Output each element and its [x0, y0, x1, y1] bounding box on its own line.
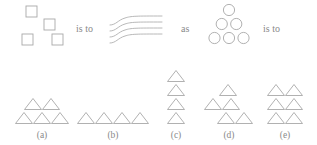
option-c[interactable] [168, 71, 185, 124]
option-a[interactable] [16, 99, 69, 124]
option-b[interactable] [78, 113, 149, 124]
triangle-shape [268, 113, 285, 124]
circle-shape [209, 32, 220, 43]
circle-shape [223, 32, 234, 43]
triangle-shape [78, 113, 95, 124]
option-e[interactable] [268, 85, 303, 124]
triangle-shape [286, 113, 303, 124]
visual-analogy-puzzle: is toasis to(a)(b)(c)(d)(e) [0, 0, 317, 145]
triangle-shape [286, 99, 303, 110]
option-d[interactable] [205, 85, 253, 124]
triangle-shape [220, 85, 237, 96]
circle-shape [216, 18, 227, 29]
triangle-shape [168, 85, 185, 96]
circle-triangle-stack [0, 0, 317, 55]
triangle-shape [43, 99, 60, 110]
triangle-shape [132, 113, 149, 124]
circle-shape [238, 32, 249, 43]
circle-shape [231, 18, 242, 29]
triangle-shape [52, 113, 69, 124]
triangle-shape [268, 99, 285, 110]
triangle-shape [96, 113, 113, 124]
triangle-shape [286, 85, 303, 96]
triangle-shape [236, 113, 253, 124]
circle-shape [223, 4, 234, 15]
option-label-a[interactable]: (a) [30, 131, 54, 141]
triangle-shape [205, 99, 222, 110]
triangle-shape [168, 113, 185, 124]
triangle-shape [223, 99, 240, 110]
triangle-shape [268, 85, 285, 96]
triangle-shape [218, 113, 235, 124]
triangle-shape [25, 99, 42, 110]
option-label-b[interactable]: (b) [101, 131, 125, 141]
triangle-shape [114, 113, 131, 124]
option-label-d[interactable]: (d) [217, 131, 241, 141]
triangle-shape [168, 99, 185, 110]
triangle-shape [16, 113, 33, 124]
option-label-e[interactable]: (e) [273, 131, 297, 141]
triangle-shape [34, 113, 51, 124]
option-label-c[interactable]: (c) [164, 131, 188, 141]
triangle-shape [168, 71, 185, 82]
